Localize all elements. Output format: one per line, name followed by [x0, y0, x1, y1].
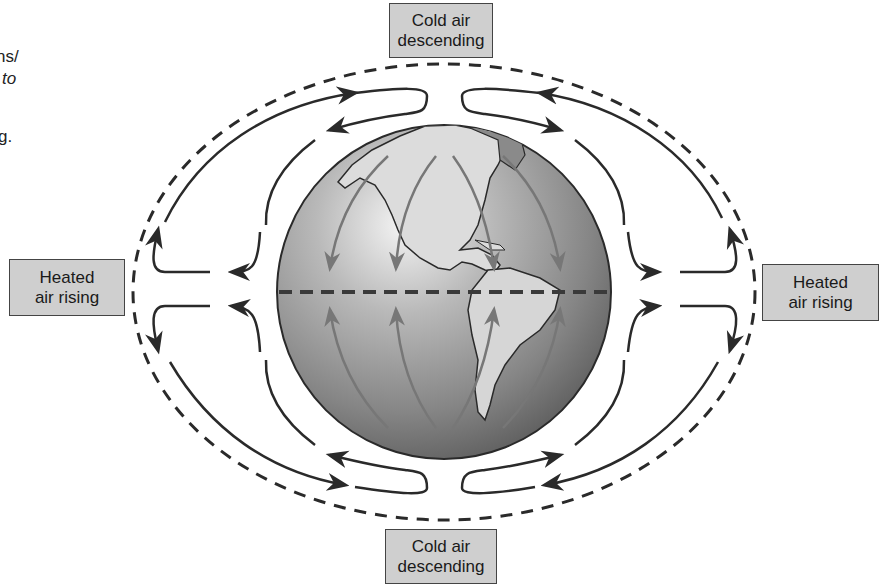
- label-line: descending: [386, 557, 496, 577]
- label-heated-air-rising-right: Heated air rising: [762, 264, 879, 321]
- label-line: Heated: [763, 273, 878, 293]
- label-line: Cold air: [390, 11, 492, 31]
- label-line: air rising: [763, 293, 878, 313]
- globe: [277, 125, 611, 459]
- label-cold-air-descending-top: Cold air descending: [389, 3, 493, 58]
- label-heated-air-rising-left: Heated air rising: [9, 259, 125, 316]
- label-line: Heated: [10, 268, 124, 288]
- label-line: air rising: [10, 288, 124, 308]
- label-cold-air-descending-bottom: Cold air descending: [385, 529, 497, 584]
- label-line: descending: [390, 31, 492, 51]
- label-line: Cold air: [386, 537, 496, 557]
- convection-diagram: [0, 0, 881, 584]
- cell-top-left-inner: [330, 96, 427, 130]
